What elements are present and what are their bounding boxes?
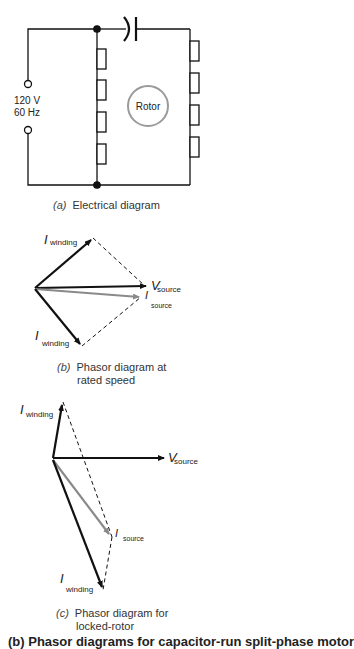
source-voltage: 120 V — [14, 95, 40, 106]
caption-c-line2: locked-rotor — [56, 620, 134, 632]
i-winding-upper-label: I — [44, 232, 48, 247]
i-source-sub: source — [151, 302, 172, 309]
i-winding-lower-arrow — [35, 289, 80, 344]
i-source-label: I — [145, 289, 148, 301]
phasor-locked-rotor — [53, 402, 164, 590]
i-winding-upper-arrow — [35, 240, 91, 288]
v-source-sub: source — [174, 457, 199, 466]
i-winding-lower-sub: winding — [65, 585, 93, 594]
caption-a-text: Electrical diagram — [72, 199, 159, 211]
source-wire-top — [28, 29, 97, 80]
caption-b: (b)Phasor diagram at rated speed — [57, 361, 166, 387]
i-source-sub: source — [123, 535, 144, 542]
caption-b-line1: Phasor diagram at — [76, 361, 166, 373]
v-source-sub: source — [157, 285, 182, 294]
i-winding-upper-arrow — [53, 405, 62, 458]
i-source-arrow — [35, 289, 139, 297]
source-frequency: 60 Hz — [14, 107, 40, 118]
i-winding-upper-label: I — [20, 402, 24, 417]
caption-c-letter: (c) — [56, 607, 69, 619]
terminal-bottom — [25, 127, 32, 134]
i-winding-lower-label: I — [60, 571, 64, 586]
v-source-arrow — [35, 286, 146, 288]
main-winding — [97, 29, 106, 185]
caption-a: (a)Electrical diagram — [53, 199, 160, 212]
i-winding-lower-arrow — [53, 460, 102, 587]
i-winding-upper-sub: winding — [25, 410, 53, 419]
auxiliary-winding — [190, 29, 199, 185]
rotor-label: Rotor — [136, 101, 161, 112]
source-wire-bottom — [28, 132, 190, 185]
caption-c-line1: Phasor diagram for — [75, 607, 169, 619]
caption-b-line2: rated speed — [57, 374, 135, 386]
terminal-top — [25, 81, 32, 88]
i-winding-lower-label: I — [35, 328, 39, 343]
i-source-label: I — [115, 527, 118, 539]
i-winding-lower-sub: winding — [41, 339, 69, 348]
caption-c: (c)Phasor diagram for locked-rotor — [56, 607, 168, 633]
circuit-diagram — [25, 17, 200, 188]
i-source-arrow — [53, 460, 109, 534]
i-winding-upper-sub: winding — [49, 238, 77, 247]
caption-a-letter: (a) — [53, 199, 66, 211]
figure-caption-partial: (b) Phasor diagrams for capacitor-run sp… — [8, 634, 354, 649]
phasor-rated-speed — [35, 238, 146, 346]
caption-b-letter: (b) — [57, 361, 70, 373]
